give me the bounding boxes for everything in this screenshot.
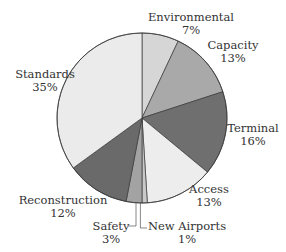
label-environmental: Environmental bbox=[148, 10, 234, 24]
label-safety: Safety bbox=[93, 219, 130, 233]
label-standards: Standards bbox=[15, 67, 75, 81]
label-new-airports: New Airports bbox=[148, 219, 226, 233]
label-terminal-pct: 16% bbox=[240, 134, 266, 148]
label-capacity: Capacity bbox=[207, 38, 259, 52]
label-capacity-pct: 13% bbox=[220, 51, 246, 65]
pie-slices bbox=[57, 33, 227, 203]
label-terminal: Terminal bbox=[227, 121, 279, 135]
label-new-airports-pct: 1% bbox=[178, 232, 196, 246]
label-reconstruction-pct: 12% bbox=[50, 206, 76, 220]
label-standards-pct: 35% bbox=[32, 80, 58, 94]
label-access-pct: 13% bbox=[196, 195, 222, 209]
label-access: Access bbox=[188, 182, 229, 196]
label-safety-pct: 3% bbox=[102, 232, 120, 246]
leader-line-new-airports bbox=[140, 203, 147, 228]
label-reconstruction: Reconstruction bbox=[19, 193, 108, 207]
label-environmental-pct: 7% bbox=[182, 23, 200, 37]
pie-chart: Environmental 7% Capacity 13% Terminal 1… bbox=[0, 0, 286, 252]
